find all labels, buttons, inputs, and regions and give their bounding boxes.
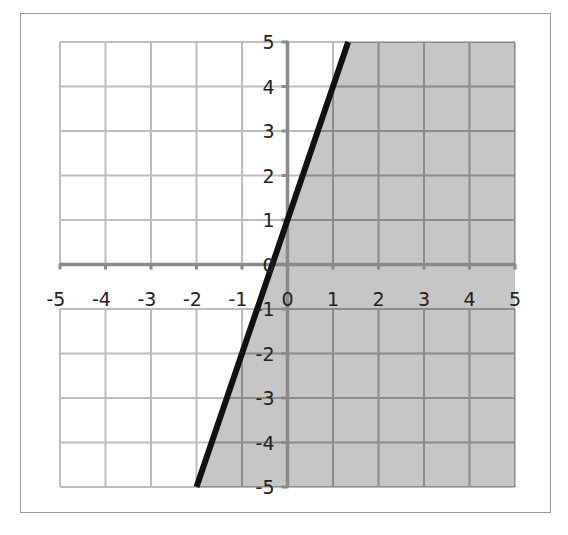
x-tick-label: 5 bbox=[509, 288, 521, 310]
y-tick-label: -4 bbox=[256, 432, 275, 454]
coordinate-plane: 543210-1-2-3-4-5-5-4-3-2-1012345 bbox=[0, 0, 568, 535]
y-tick-label: 4 bbox=[262, 76, 274, 98]
y-tick-label: 3 bbox=[262, 120, 274, 142]
y-tick-label: 5 bbox=[262, 31, 274, 53]
x-tick-label: 2 bbox=[372, 288, 384, 310]
x-tick-label: -2 bbox=[183, 288, 202, 310]
x-tick-label: -4 bbox=[92, 288, 111, 310]
x-tick-label: -3 bbox=[138, 288, 157, 310]
y-tick-label: -3 bbox=[256, 387, 275, 409]
x-tick-label: -5 bbox=[47, 288, 66, 310]
y-tick-label: -1 bbox=[256, 298, 275, 320]
x-tick-label: 1 bbox=[327, 288, 339, 310]
y-tick-label: 1 bbox=[262, 209, 274, 231]
y-tick-label: -5 bbox=[256, 476, 275, 498]
y-tick-label: 2 bbox=[262, 165, 274, 187]
x-tick-label: -1 bbox=[229, 288, 248, 310]
x-tick-label: 3 bbox=[418, 288, 430, 310]
y-tick-label: 0 bbox=[262, 254, 274, 276]
x-tick-label: 4 bbox=[463, 288, 475, 310]
x-tick-label: 0 bbox=[281, 288, 293, 310]
y-tick-label: -2 bbox=[256, 343, 275, 365]
